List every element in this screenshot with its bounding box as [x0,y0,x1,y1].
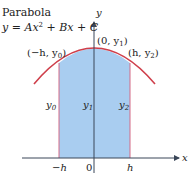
point-right-label: (h, y2) [128,47,159,60]
point-left-label: (−h, y0) [27,47,66,60]
tick-zero: 0 [86,162,92,173]
title-label: Parabola [2,6,51,19]
tick-h: h [127,162,133,173]
x-axis-label: x [182,152,188,163]
point-top-label: (0, y1) [97,35,128,48]
y-axis-label: y [95,7,102,18]
tick-neg-h: −h [52,162,67,173]
equation-label: y = Ax2 + Bx + C [1,21,99,34]
parabola-diagram: Parabola y = Ax2 + Bx + C y x −h 0 h (−h… [0,0,192,180]
ordinate-y0-label: y0 [45,99,57,112]
